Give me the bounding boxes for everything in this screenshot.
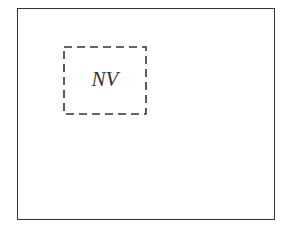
region-label: NV [63, 46, 147, 115]
